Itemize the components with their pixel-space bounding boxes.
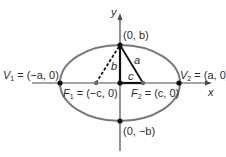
point-f1 <box>94 81 98 85</box>
bottom-vertex-label: (0, −b) <box>123 125 155 137</box>
point-v1 <box>57 80 62 85</box>
top-vertex-label: (0, b) <box>123 29 149 41</box>
point-origin <box>117 80 122 85</box>
y-axis-arrow-icon <box>118 13 123 20</box>
segment-a-label: a <box>134 54 140 66</box>
segment-c-label: c <box>128 70 134 82</box>
segment-b-label: b <box>111 60 117 72</box>
f2-label: F2 = (c, 0) <box>131 87 179 100</box>
point-bottom <box>117 118 122 123</box>
f1-label: F1 = (−c, 0) <box>63 87 118 100</box>
point-top <box>117 42 122 47</box>
y-axis-label: y <box>110 6 118 18</box>
x-axis-label: x <box>207 86 214 98</box>
point-v2 <box>176 80 181 85</box>
v2-label: V2 = (a, 0) <box>180 69 226 82</box>
point-f2 <box>141 81 145 85</box>
v1-label: V1 = (−a, 0) <box>3 69 59 82</box>
x-axis-arrow-icon <box>205 81 212 86</box>
ellipse-diagram: y x (0, b) (0, −b) V1 = (−a, 0) V2 = (a,… <box>0 0 226 157</box>
